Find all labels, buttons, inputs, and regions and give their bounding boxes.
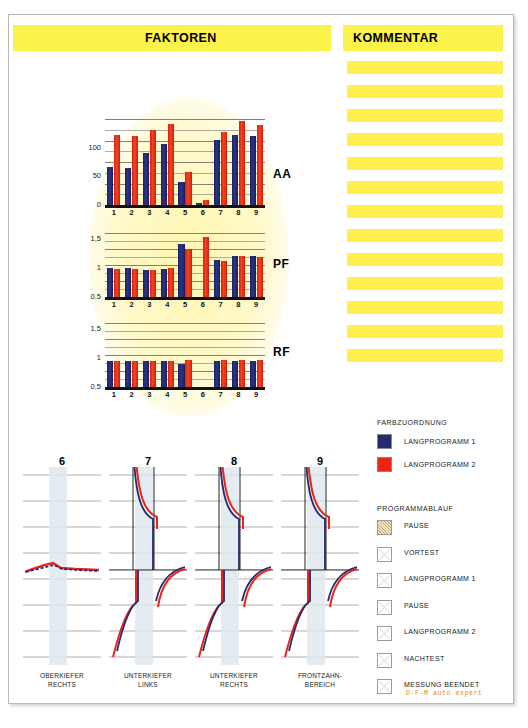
x-axis-tick: 7 [215,390,227,399]
bar [239,121,245,205]
bar [232,361,238,387]
x-axis-tick: 5 [179,300,191,309]
comment-bar[interactable] [347,109,503,122]
x-axis-tick: 6 [197,390,209,399]
bar [132,269,138,297]
y-axis-tick: 0 [79,200,101,209]
bar [257,125,263,205]
comment-bar[interactable] [347,349,503,362]
waveform-caption-line2: RECHTS [23,680,101,689]
y-axis-tick: 1,5 [79,324,101,333]
y-axis-tick: 100 [79,143,101,152]
comment-bar[interactable] [347,277,503,290]
waveform-number: 6 [23,455,101,467]
flow-step[interactable]: LANGPROGRAMM 1 [377,573,517,594]
y-axis-tick: 0,5 [79,292,101,301]
waveform-caption-line1: FRONTZAHN- [281,671,359,680]
x-axis-tick: 4 [161,390,173,399]
flow-step-label: VORTEST [404,547,439,556]
waveform-caption-line2: LINKS [109,680,187,689]
hatched-box-icon [377,520,392,535]
bar [168,124,174,205]
header-title-kommentar: KOMMENTAR [353,31,438,45]
comment-bar[interactable] [347,61,503,74]
bar [107,268,113,297]
bar [196,203,202,205]
comment-bar[interactable] [347,229,503,242]
program-flow: PROGRAMMABLAUF PAUSEVORTESTLANGPROGRAMM … [377,505,517,706]
x-axis-tick: 8 [232,300,244,309]
bar [250,136,256,205]
bar [185,249,191,297]
x-box-icon [377,573,392,588]
waveform-caption-line1: UNTERKIEFER [195,671,273,680]
legend-color-swatch [377,457,392,472]
bar [161,144,167,205]
flow-step-label: PAUSE [404,600,429,609]
flow-step[interactable]: NACHTEST [377,653,517,674]
bar [257,257,263,297]
comment-bar[interactable] [347,205,503,218]
bar [125,361,131,387]
gridline [105,233,265,234]
flow-step[interactable]: LANGPROGRAMM 2 [377,626,517,647]
flow-title: PROGRAMMABLAUF [377,505,517,512]
comment-bar[interactable] [347,181,503,194]
legend-item-label: LANGPROGRAMM 2 [404,461,476,468]
comment-bar[interactable] [347,85,503,98]
waveform-caption: UNTERKIEFERRECHTS [195,671,273,689]
bar [221,360,227,387]
x-axis-tick: 3 [143,208,155,217]
gridline [105,355,265,356]
x-axis-tick: 3 [143,390,155,399]
bar [203,237,209,297]
flow-step[interactable]: PAUSE [377,520,517,541]
x-axis-tick: 9 [250,390,262,399]
bar [150,361,156,387]
comment-bar[interactable] [347,253,503,266]
bar [185,172,191,205]
x-box-icon [377,679,392,694]
x-box-icon [377,626,392,641]
x-axis-tick: 6 [197,300,209,309]
bar [168,361,174,387]
comment-bar[interactable] [347,157,503,170]
waveform-plot [195,467,273,665]
y-axis-tick: 1 [79,353,101,362]
flow-step-label: PAUSE [404,520,429,529]
waveform-plot [23,467,101,665]
gridline [105,331,265,332]
flow-step[interactable]: PAUSE [377,600,517,621]
x-axis-tick: 3 [143,300,155,309]
flow-step-label: LANGPROGRAMM 2 [404,626,476,635]
waveform-caption-line1: UNTERKIEFER [109,671,187,680]
x-axis-tick: 9 [250,208,262,217]
comment-bar[interactable] [347,325,503,338]
waveform-number: 8 [195,455,273,467]
bar [232,135,238,205]
flow-step[interactable]: MESSUNG BEENDETD-F-M auto expert [377,679,517,700]
x-axis-tick: 2 [126,300,138,309]
comment-bar[interactable] [347,301,503,314]
bar [161,269,167,298]
bar [143,153,149,205]
y-axis-tick: 0,5 [79,382,101,391]
bar [214,260,220,297]
bar [125,168,131,205]
comment-bar[interactable] [347,133,503,146]
flow-step-label: MESSUNG BEENDET [404,679,483,688]
bar [239,360,245,387]
x-axis-tick: 1 [108,300,120,309]
bar [214,140,220,205]
waveform-panel-8: 8UNTERKIEFERRECHTS [195,467,273,665]
x-axis-tick: 1 [108,390,120,399]
y-axis-tick: 1,5 [79,234,101,243]
flow-step[interactable]: VORTEST [377,547,517,568]
legend-title: FARBZUORDNUNG [377,419,507,426]
waveform-number: 9 [281,455,359,467]
chart-label-rf: RF [273,345,290,359]
comment-bar-list [347,61,503,373]
x-axis-tick: 5 [179,208,191,217]
gridline [105,241,265,242]
bar [168,268,174,297]
